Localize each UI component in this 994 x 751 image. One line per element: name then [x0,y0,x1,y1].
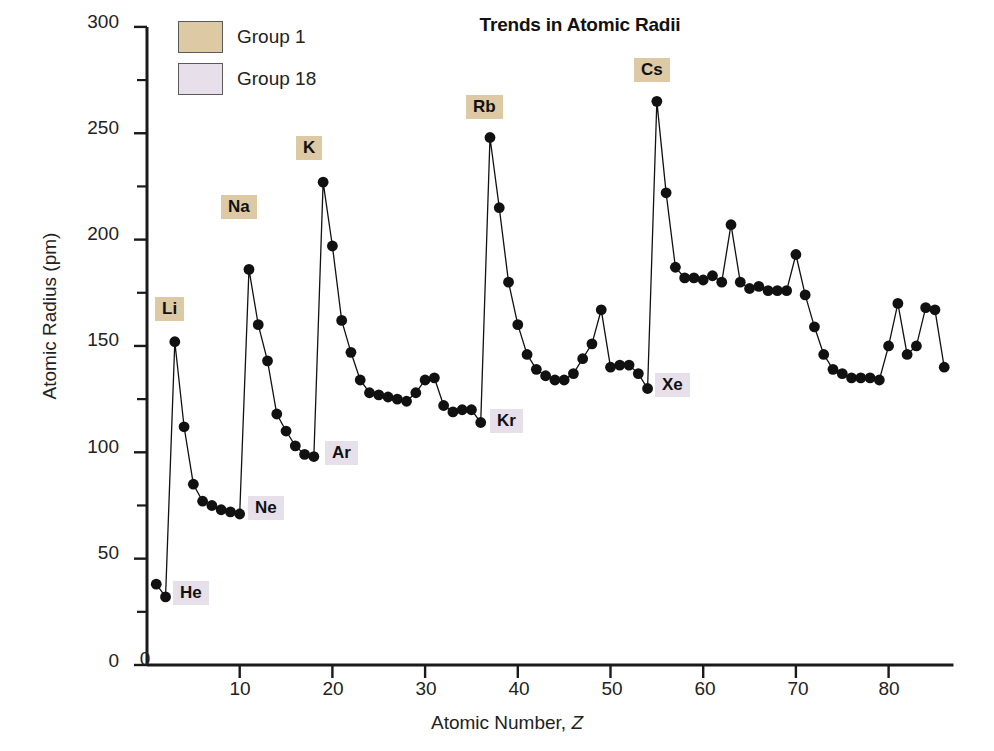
x-tick-label-0: 0 [120,648,170,670]
y-tick-label-300: 300 [63,11,119,33]
legend-item-group-18: Group 18 [178,60,316,98]
x-tick-label-80: 80 [864,678,914,700]
element-label-he: He [173,581,209,605]
y-tick-label-150: 150 [63,329,119,351]
legend-item-group-1: Group 1 [178,18,316,56]
y-tick-label-200: 200 [63,223,119,245]
element-label-na: Na [221,195,257,219]
atomic-radii-chart-figure: Trends in Atomic Radii Atomic Radius (pm… [0,0,994,751]
chart-legend: Group 1 Group 18 [178,18,316,102]
y-axis-label: Atomic Radius (pm) [39,206,61,426]
element-label-k: K [296,136,322,160]
element-label-kr: Kr [490,409,523,433]
element-label-rb: Rb [466,95,503,119]
x-tick-label-50: 50 [587,678,637,700]
legend-swatch-group-1 [178,21,223,53]
x-tick-label-70: 70 [773,678,823,700]
legend-label-group-18: Group 18 [237,68,316,90]
element-label-xe: Xe [655,373,690,397]
element-label-ne: Ne [248,496,284,520]
y-tick-label-0: 0 [63,650,119,672]
atomic-radius-line [156,101,944,597]
x-tick-label-60: 60 [680,678,730,700]
element-label-ar: Ar [325,441,358,465]
x-tick-label-10: 10 [215,678,265,700]
x-axis-label: Atomic Number, Z [347,712,667,734]
y-tick-label-100: 100 [63,436,119,458]
x-tick-label-20: 20 [308,678,358,700]
page-title: Trends in Atomic Radii [430,14,730,36]
y-tick-label-50: 50 [63,542,119,564]
x-tick-label-40: 40 [494,678,544,700]
y-tick-label-250: 250 [63,117,119,139]
legend-label-group-1: Group 1 [237,26,306,48]
element-label-li: Li [155,297,184,321]
atomic-radius-markers [151,96,950,602]
chart-tick-marks [134,27,889,678]
element-label-cs: Cs [634,58,670,82]
legend-swatch-group-18 [178,63,223,95]
x-tick-label-30: 30 [401,678,451,700]
chart-axes [147,27,953,665]
